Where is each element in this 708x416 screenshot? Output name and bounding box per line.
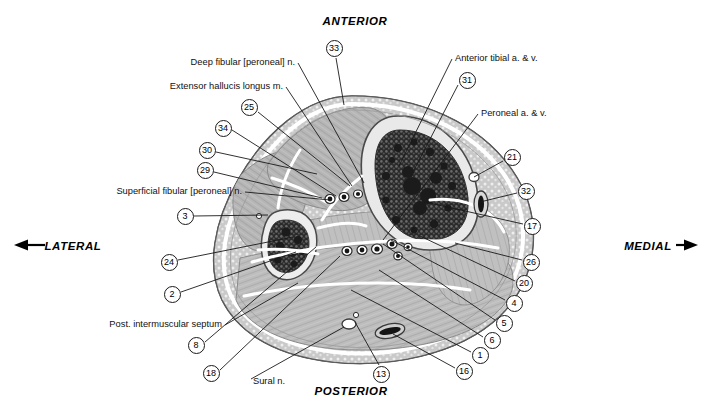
superficial-fibular-nerve-dot — [256, 213, 261, 218]
callout-33[interactable]: 33 — [326, 40, 343, 57]
callout-18[interactable]: 18 — [203, 365, 220, 382]
callout-4[interactable]: 4 — [506, 295, 523, 312]
callout-29[interactable]: 29 — [197, 162, 214, 179]
callout-20[interactable]: 20 — [516, 275, 533, 292]
sural-nerve-dot — [353, 312, 358, 317]
callout-5[interactable]: 5 — [496, 315, 513, 332]
callout-8[interactable]: 8 — [188, 337, 205, 354]
label-deep-fibular-nerve: Deep fibular [peroneal] n. — [191, 57, 295, 67]
callout-6[interactable]: 6 — [484, 332, 501, 349]
callout-30[interactable]: 30 — [199, 142, 216, 159]
orientation-label-lateral: LATERAL — [44, 240, 101, 252]
lateral-arrow-icon — [14, 240, 45, 251]
callout-31[interactable]: 31 — [459, 72, 476, 89]
orientation-label-medial: MEDIAL — [624, 240, 672, 252]
label-extensor-hallucis-longus: Extensor hallucis longus m. — [170, 81, 283, 91]
orientation-label-posterior: POSTERIOR — [314, 385, 387, 397]
label-peroneal-vessels: Peroneal a. & v. — [481, 108, 546, 118]
callout-3[interactable]: 3 — [177, 208, 194, 225]
callout-24[interactable]: 24 — [161, 254, 178, 271]
callout-16[interactable]: 16 — [456, 363, 473, 380]
medial-arrow-icon — [676, 240, 698, 251]
anatomical-cross-section-figure — [0, 0, 708, 416]
orientation-label-anterior: ANTERIOR — [323, 15, 388, 27]
callout-1[interactable]: 1 — [472, 347, 489, 364]
label-superficial-fibular-nerve: Superficial fibular [peroneal] n. — [116, 186, 242, 196]
callout-32[interactable]: 32 — [518, 183, 535, 200]
callout-21[interactable]: 21 — [504, 149, 521, 166]
label-post-intermuscular-septum: Post. intermuscular septum — [109, 319, 222, 329]
small-saphenous-vein — [342, 319, 356, 329]
figure-page: ANTERIORPOSTERIORLATERALMEDIAL Deep fibu… — [0, 0, 708, 416]
callout-25[interactable]: 25 — [241, 99, 258, 116]
label-anterior-tibial-vessels: Anterior tibial a. & v. — [455, 53, 538, 63]
callout-2[interactable]: 2 — [164, 286, 181, 303]
callout-13[interactable]: 13 — [373, 366, 390, 383]
limb-cross-section — [214, 96, 534, 363]
callout-26[interactable]: 26 — [523, 254, 540, 271]
callout-34[interactable]: 34 — [215, 120, 232, 137]
callout-17[interactable]: 17 — [524, 218, 541, 235]
label-sural-nerve: Sural n. — [253, 376, 285, 386]
